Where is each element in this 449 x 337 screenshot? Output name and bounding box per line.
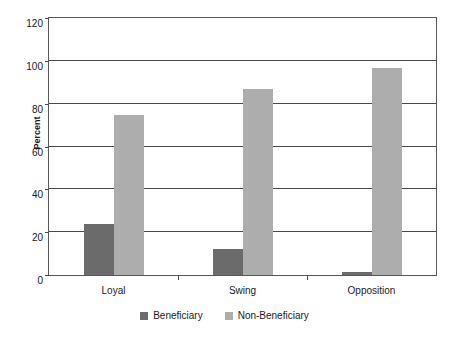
y-axis-tick-mark — [45, 275, 49, 276]
x-axis-tick-mark — [178, 275, 179, 280]
y-axis-tick-mark — [45, 189, 49, 190]
x-axis-category-label-loyal: Loyal — [102, 285, 126, 296]
y-axis-tick-mark — [45, 18, 49, 19]
y-axis-tick-mark — [45, 61, 49, 62]
gridline — [49, 60, 436, 61]
bar-opposition-beneficiary — [342, 272, 372, 275]
chart-legend: BeneficiaryNon-Beneficiary — [0, 310, 449, 321]
bar-opposition-non-beneficiary — [372, 68, 402, 275]
legend-swatch-icon — [225, 312, 233, 320]
legend-entry-non-beneficiary[interactable]: Non-Beneficiary — [225, 310, 309, 321]
bar-swing-non-beneficiary — [243, 89, 273, 275]
bar-loyal-non-beneficiary — [114, 115, 144, 275]
legend-label: Beneficiary — [153, 310, 202, 321]
bar-chart-figure: Percent 020406080100120LoyalSwingOpposit… — [0, 0, 449, 337]
plot-area: 020406080100120LoyalSwingOpposition — [48, 17, 437, 276]
legend-label: Non-Beneficiary — [238, 310, 309, 321]
bar-loyal-beneficiary — [84, 224, 114, 275]
legend-swatch-icon — [140, 312, 148, 320]
x-axis-category-label-opposition: Opposition — [348, 285, 396, 296]
legend-entry-beneficiary[interactable]: Beneficiary — [140, 310, 202, 321]
bar-swing-beneficiary — [213, 249, 243, 275]
x-axis-tick-mark — [307, 275, 308, 280]
x-axis-category-label-swing: Swing — [229, 285, 256, 296]
y-axis-tick-mark — [45, 104, 49, 105]
y-axis-tick-mark — [45, 232, 49, 233]
y-axis-tick-mark — [45, 147, 49, 148]
